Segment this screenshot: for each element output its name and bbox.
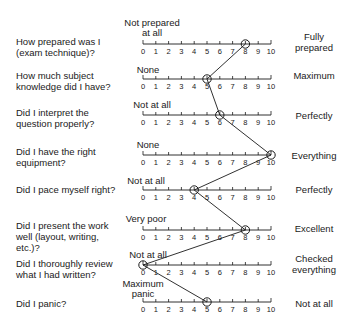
tick-label: 6 xyxy=(218,82,222,91)
tick-label: 3 xyxy=(179,193,183,202)
tick-label: 2 xyxy=(167,268,171,277)
tick-label: 1 xyxy=(154,82,158,91)
tick-label: 6 xyxy=(218,47,222,56)
tick-label: 1 xyxy=(154,158,158,167)
tick-label: 0 xyxy=(141,305,145,314)
tick-label: 2 xyxy=(167,305,171,314)
tick-label: 4 xyxy=(192,158,196,167)
tick-label: 4 xyxy=(192,233,196,242)
tick-label: 3 xyxy=(179,268,183,277)
tick-label: 2 xyxy=(167,118,171,127)
tick-label: 0 xyxy=(141,47,145,56)
tick-label: 10 xyxy=(267,305,275,314)
tick-label: 7 xyxy=(231,268,235,277)
tick-label: 9 xyxy=(256,193,260,202)
tick-label: 9 xyxy=(256,233,260,242)
tick-label: 0 xyxy=(141,158,145,167)
tick-label: 2 xyxy=(167,193,171,202)
tick-label: 4 xyxy=(192,47,196,56)
tick-label: 4 xyxy=(192,305,196,314)
tick-label: 6 xyxy=(218,193,222,202)
tick-label: 10 xyxy=(267,118,275,127)
tick-label: 6 xyxy=(218,305,222,314)
tick-label: 2 xyxy=(167,158,171,167)
tick-label: 4 xyxy=(192,82,196,91)
tick-label: 5 xyxy=(205,118,209,127)
tick-label: 3 xyxy=(179,305,183,314)
tick-label: 9 xyxy=(256,305,260,314)
tick-label: 1 xyxy=(154,47,158,56)
tick-label: 5 xyxy=(205,47,209,56)
tick-label: 2 xyxy=(167,47,171,56)
tick-label: 10 xyxy=(267,82,275,91)
tick-label: 4 xyxy=(192,118,196,127)
tick-label: 5 xyxy=(205,268,209,277)
tick-label: 10 xyxy=(267,233,275,242)
tick-label: 5 xyxy=(205,158,209,167)
tick-label: 0 xyxy=(141,118,145,127)
tick-label: 0 xyxy=(141,82,145,91)
tick-label: 10 xyxy=(267,268,275,277)
tick-label: 7 xyxy=(231,305,235,314)
tick-label: 6 xyxy=(218,268,222,277)
tick-label: 9 xyxy=(256,47,260,56)
tick-label: 3 xyxy=(179,158,183,167)
tick-label: 1 xyxy=(154,233,158,242)
tick-label: 9 xyxy=(256,82,260,91)
tick-label: 7 xyxy=(231,193,235,202)
tick-label: 6 xyxy=(218,233,222,242)
tick-label: 8 xyxy=(243,82,247,91)
tick-label: 4 xyxy=(192,268,196,277)
tick-label: 8 xyxy=(243,118,247,127)
tick-label: 2 xyxy=(167,82,171,91)
tick-label: 8 xyxy=(243,268,247,277)
tick-label: 9 xyxy=(256,118,260,127)
rating-scales-plot: 0123456789100123456789100123456789100123… xyxy=(0,0,349,330)
tick-label: 3 xyxy=(179,118,183,127)
tick-label: 9 xyxy=(256,158,260,167)
tick-label: 9 xyxy=(256,268,260,277)
tick-label: 1 xyxy=(154,305,158,314)
tick-label: 8 xyxy=(243,305,247,314)
tick-label: 6 xyxy=(218,158,222,167)
tick-label: 7 xyxy=(231,158,235,167)
tick-label: 7 xyxy=(231,82,235,91)
tick-label: 0 xyxy=(141,233,145,242)
tick-label: 2 xyxy=(167,233,171,242)
tick-label: 10 xyxy=(267,193,275,202)
tick-label: 8 xyxy=(243,193,247,202)
tick-label: 3 xyxy=(179,233,183,242)
tick-label: 1 xyxy=(154,193,158,202)
tick-label: 0 xyxy=(141,193,145,202)
tick-label: 1 xyxy=(154,118,158,127)
tick-label: 10 xyxy=(267,47,275,56)
tick-label: 5 xyxy=(205,233,209,242)
tick-label: 3 xyxy=(179,47,183,56)
tick-label: 3 xyxy=(179,82,183,91)
